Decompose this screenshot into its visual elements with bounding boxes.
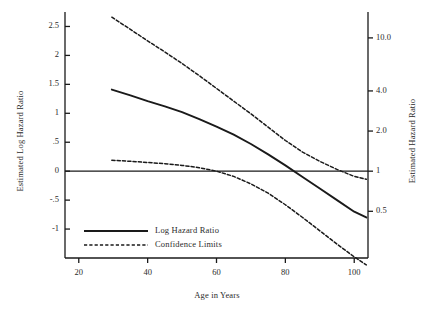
data-series-group [112, 17, 366, 265]
left-tick-label: 2 [19, 49, 59, 59]
bottom-axis-ticks [79, 258, 354, 263]
left-axis-ticks [65, 26, 70, 229]
right-tick-label: 4.0 [376, 85, 416, 95]
bottom-tick-label: 80 [265, 267, 305, 277]
legend-label-1: Confidence Limits [155, 239, 222, 249]
right-axis-title: Estimated Hazard Ratio [407, 51, 417, 231]
series-line-0 [112, 90, 366, 218]
series-line-2 [112, 160, 366, 265]
right-axis-ticks [368, 38, 373, 211]
right-tick-label: 10.0 [376, 32, 416, 42]
bottom-tick-label: 40 [128, 267, 168, 277]
right-tick-label: 2.0 [376, 125, 416, 135]
right-tick-label: 0.5 [376, 205, 416, 215]
left-tick-label: 1 [19, 107, 59, 117]
series-line-1 [112, 17, 366, 179]
x-axis-title: Age in Years [0, 290, 434, 300]
legend-sample-lines [84, 231, 148, 245]
axis-lines [65, 12, 368, 258]
right-tick-label: 1 [376, 165, 416, 175]
bottom-tick-label: 100 [334, 267, 374, 277]
chart-figure: Estimated Log Hazard Ratio Estimated Haz… [0, 0, 434, 315]
left-tick-label: 1.5 [19, 78, 59, 88]
left-tick-label: .5 [19, 136, 59, 146]
left-tick-label: -1 [19, 223, 59, 233]
bottom-tick-label: 60 [197, 267, 237, 277]
left-tick-label: -.5 [19, 194, 59, 204]
left-tick-label: 0 [19, 165, 59, 175]
legend-label-0: Log Hazard Ratio [155, 225, 219, 235]
left-tick-label: 2.5 [19, 20, 59, 30]
bottom-tick-label: 20 [59, 267, 99, 277]
